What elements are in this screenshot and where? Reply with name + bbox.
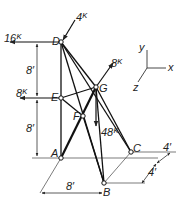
load-label-8k-G: 8ᴷ: [111, 57, 123, 69]
dim-label-BC-upper: 4′: [163, 141, 172, 153]
dim-label-BC-lower: 4′: [148, 166, 157, 178]
label-G: G: [99, 82, 108, 94]
axis-triad: [138, 50, 166, 82]
joint-G: [94, 85, 98, 89]
label-B: B: [103, 186, 110, 198]
dim-label-DE: 8′: [26, 64, 35, 76]
joint-B: [102, 181, 106, 185]
axis-label-z: z: [132, 81, 139, 93]
load-arrow-4k: [63, 20, 75, 40]
load-label-4k: 4ᴷ: [76, 11, 88, 23]
load-label-8k-E: 8ᴷ: [16, 87, 28, 99]
dim-label-AB: 8′: [66, 180, 75, 192]
label-C: C: [133, 142, 141, 154]
axis-label-x: x: [167, 61, 174, 73]
label-D: D: [52, 35, 60, 47]
label-E: E: [51, 91, 59, 103]
joint-F: [81, 114, 85, 118]
joint-A: [59, 156, 63, 160]
truss-diagram: D E A G F B C 16ᴷ 4ᴷ 8ᴷ 8ᴷ 48ᴷ 8′ 8′ 8′ …: [0, 0, 183, 204]
label-A: A: [50, 147, 58, 159]
axis-label-y: y: [138, 41, 146, 53]
member-DG: [61, 42, 96, 87]
dim-label-EA: 8′: [26, 122, 35, 134]
load-label-16k: 16ᴷ: [4, 32, 22, 44]
z-axis: [138, 68, 147, 82]
joint-E: [59, 96, 63, 100]
load-label-48k: 48ᴷ: [101, 126, 119, 138]
